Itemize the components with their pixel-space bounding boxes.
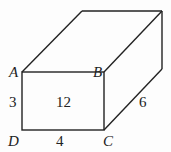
depth-label: 6: [139, 94, 147, 110]
vertex-b-label: B: [93, 64, 102, 80]
side-dc-label: 4: [56, 133, 64, 149]
vertex-d-label: D: [7, 133, 19, 149]
edge-c-back: [104, 69, 162, 130]
side-ad-label: 3: [9, 94, 17, 110]
vertex-a-label: A: [8, 64, 19, 80]
prism-edges: [22, 11, 162, 130]
face-area-label: 12: [56, 94, 71, 110]
edge-a-back: [22, 11, 82, 72]
prism-diagram: A B C D 3 12 4 6: [0, 0, 171, 152]
vertex-c-label: C: [103, 133, 114, 149]
edge-b-back: [104, 11, 162, 72]
